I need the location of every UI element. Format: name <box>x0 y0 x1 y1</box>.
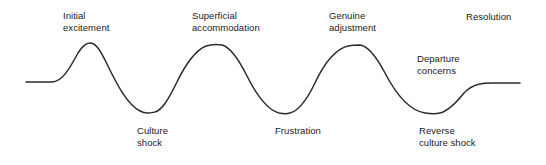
label-resolution: Resolution <box>466 11 511 23</box>
culture-shock-curve-figure: Initial excitement Culture shock Superfi… <box>0 0 546 165</box>
label-departure-concerns: Departure concerns <box>417 53 460 76</box>
label-culture-shock: Culture shock <box>137 125 168 148</box>
label-genuine-adjustment: Genuine adjustment <box>329 10 376 33</box>
label-superficial-accommodation: Superficial accommodation <box>192 10 260 33</box>
label-initial-excitement: Initial excitement <box>63 10 109 33</box>
label-frustration: Frustration <box>275 125 321 137</box>
label-reverse-culture-shock: Reverse culture shock <box>419 125 476 148</box>
